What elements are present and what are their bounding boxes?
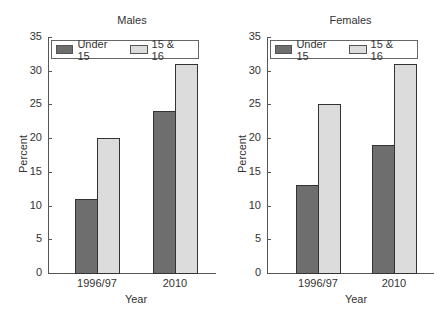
- legend-swatch: [349, 45, 366, 54]
- legend-item: Under 15: [56, 38, 116, 62]
- legend-item: 15 & 16: [349, 38, 403, 62]
- legend-label: Under 15: [296, 38, 335, 62]
- y-tick: [267, 206, 271, 207]
- y-tick-label: 25: [237, 97, 261, 109]
- bar-under-15: [75, 199, 98, 274]
- y-tick: [48, 138, 52, 139]
- bar-under-15: [296, 185, 319, 274]
- y-tick-label: 30: [237, 64, 261, 76]
- y-tick: [267, 138, 271, 139]
- y-tick: [267, 104, 271, 105]
- y-tick: [267, 239, 271, 240]
- y-tick: [48, 37, 52, 38]
- y-tick: [267, 172, 271, 173]
- y-tick-label: 25: [18, 97, 42, 109]
- x-category-label: 1996/97: [288, 277, 348, 289]
- bar-under-15: [372, 145, 395, 274]
- y-tick: [48, 172, 52, 173]
- y-tick-label: 0: [237, 266, 261, 278]
- y-tick-label: 35: [237, 30, 261, 42]
- legend: Under 1515 & 16: [51, 40, 199, 59]
- chart-title: Males: [72, 14, 192, 26]
- legend-item: 15 & 16: [130, 38, 184, 62]
- legend-label: Under 15: [77, 38, 116, 62]
- y-tick-label: 10: [18, 199, 42, 211]
- x-category-label: 1996/97: [67, 277, 127, 289]
- bar-under-15: [153, 111, 176, 274]
- y-tick-label: 10: [237, 199, 261, 211]
- y-axis-label: Percent: [17, 124, 29, 184]
- legend-label: 15 & 16: [371, 38, 403, 62]
- y-axis-label: Percent: [236, 124, 248, 184]
- x-axis-label: Year: [106, 293, 166, 305]
- y-tick: [267, 71, 271, 72]
- legend-item: Under 15: [275, 38, 335, 62]
- y-tick: [48, 239, 52, 240]
- legend-swatch: [130, 45, 147, 54]
- legend-swatch: [56, 45, 73, 54]
- y-tick: [267, 37, 271, 38]
- bar-15-16: [318, 104, 341, 274]
- y-tick: [48, 273, 52, 274]
- y-tick-label: 35: [18, 30, 42, 42]
- legend-swatch: [275, 45, 292, 54]
- y-tick-label: 5: [18, 232, 42, 244]
- y-tick: [48, 104, 52, 105]
- y-tick: [48, 206, 52, 207]
- bar-15-16: [97, 138, 120, 274]
- x-category-label: 2010: [145, 277, 205, 289]
- y-tick-label: 0: [18, 266, 42, 278]
- x-category-label: 2010: [364, 277, 424, 289]
- bar-15-16: [394, 64, 417, 274]
- y-tick: [48, 71, 52, 72]
- legend-label: 15 & 16: [152, 38, 184, 62]
- x-axis-label: Year: [326, 293, 386, 305]
- y-tick-label: 5: [237, 232, 261, 244]
- chart-title: Females: [291, 14, 411, 26]
- y-tick-label: 30: [18, 64, 42, 76]
- bar-15-16: [175, 64, 198, 274]
- y-tick: [267, 273, 271, 274]
- legend: Under 1515 & 16: [270, 40, 418, 59]
